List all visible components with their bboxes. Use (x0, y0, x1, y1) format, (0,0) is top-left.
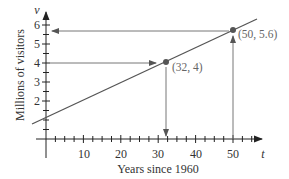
x-variable-label: t (261, 147, 265, 161)
x-axis-title: Years since 1960 (117, 162, 198, 176)
y-tick-4: 4 (34, 56, 40, 70)
y-tick-2: 2 (34, 94, 40, 108)
x-tick-50: 50 (227, 147, 239, 161)
x-axis: 10 20 30 40 50 t Years since 1960 (36, 135, 265, 176)
annotation-arrows (50, 31, 233, 139)
x-tick-10: 10 (78, 147, 90, 161)
x-tick-30: 30 (152, 147, 164, 161)
y-tick-5: 5 (34, 37, 40, 51)
point-32-4 (163, 59, 169, 65)
y-axis: 2 3 4 5 6 v Millions of visitors (13, 3, 50, 158)
chart: 10 20 30 40 50 t Years since 1960 2 3 4 … (0, 0, 289, 179)
x-tick-40: 40 (190, 147, 202, 161)
x-tick-20: 20 (115, 147, 127, 161)
y-variable-label: v (34, 3, 40, 17)
point-50-5.6 (230, 27, 236, 33)
y-tick-3: 3 (34, 75, 40, 89)
point-label-50-5.6: (50, 5.6) (238, 28, 277, 41)
y-tick-6: 6 (34, 18, 40, 32)
y-axis-title: Millions of visitors (13, 29, 27, 121)
model-line (32, 19, 257, 124)
point-label-32-4: (32, 4) (172, 61, 203, 74)
